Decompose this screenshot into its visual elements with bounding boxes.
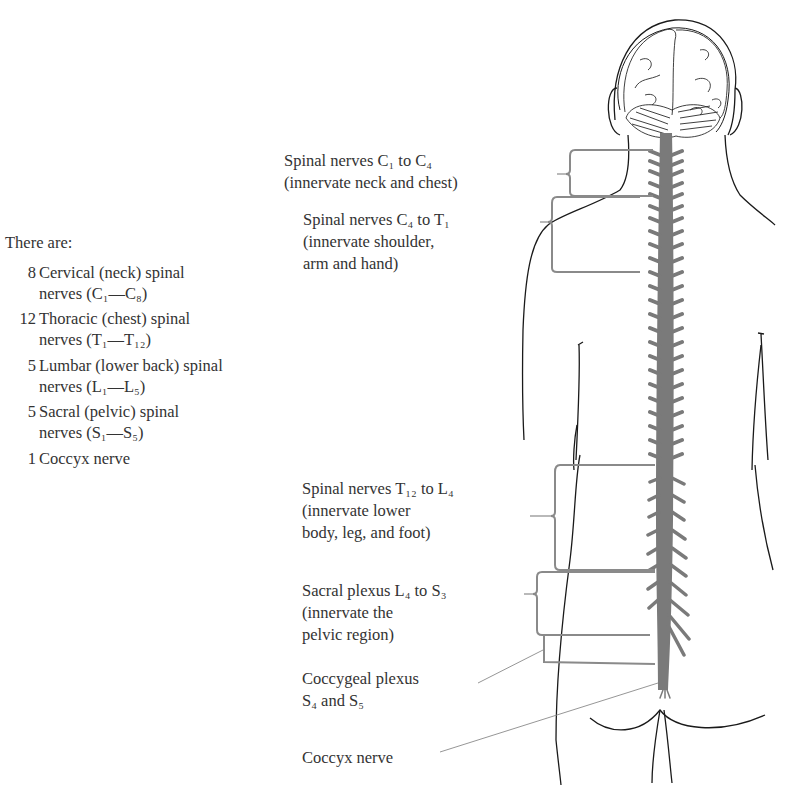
item-subtext: nerves (C₁—C₈) <box>5 283 185 304</box>
count: 12 <box>5 308 39 329</box>
list-item-lumbar: 5Lumbar (lower back) spinal nerves (L₁—L… <box>5 355 223 397</box>
list-item-cervical: 8Cervical (neck) spinal nerves (C₁—C₈) <box>5 262 185 304</box>
label-line: (innervate neck and chest) <box>284 172 458 194</box>
label-brackets <box>524 150 655 664</box>
leader-lines <box>440 650 658 752</box>
item-text: Thoracic (chest) spinal <box>39 309 190 328</box>
label-coccygeal-plexus: Coccygeal plexus S₄ and S₅ <box>302 668 419 712</box>
item-text: Coccyx nerve <box>39 449 130 468</box>
label-line: Coccyx nerve <box>302 747 393 769</box>
label-line: (innervate shoulder, <box>303 231 450 253</box>
label-line: pelvic region) <box>302 624 446 646</box>
label-line: S₄ and S₅ <box>302 690 419 712</box>
brain-icon <box>624 29 728 137</box>
count: 5 <box>5 401 39 422</box>
count: 1 <box>5 448 39 469</box>
count: 8 <box>5 262 39 283</box>
label-line: Spinal nerves T₁₂ to L₄ <box>302 478 454 500</box>
label-line: Spinal nerves C₁ to C₄ <box>284 150 458 172</box>
intro-heading: There are: <box>5 232 72 254</box>
label-line: (innervate lower <box>302 500 454 522</box>
label-line: (innervate the <box>302 602 446 624</box>
item-subtext: nerves (S₁—S₅) <box>5 422 179 443</box>
spinal-cord <box>656 133 674 690</box>
label-line: Spinal nerves C₄ to T₁ <box>303 209 450 231</box>
label-c1-c4: Spinal nerves C₁ to C₄ (innervate neck a… <box>284 150 458 194</box>
list-item-sacral: 5Sacral (pelvic) spinal nerves (S₁—S₅) <box>5 401 179 443</box>
count: 5 <box>5 355 39 376</box>
item-subtext: nerves (L₁—L₅) <box>5 376 223 397</box>
label-sacral-plexus: Sacral plexus L₄ to S₃ (innervate the pe… <box>302 580 446 646</box>
label-line: Coccygeal plexus <box>302 668 419 690</box>
label-c4-t1: Spinal nerves C₄ to T₁ (innervate should… <box>303 209 450 275</box>
label-coccyx-nerve: Coccyx nerve <box>302 747 393 769</box>
label-line: Sacral plexus L₄ to S₃ <box>302 580 446 602</box>
label-line: arm and hand) <box>303 253 450 275</box>
item-text: Sacral (pelvic) spinal <box>39 402 179 421</box>
item-subtext: nerves (T₁—T₁₂) <box>5 329 190 350</box>
item-text: Cervical (neck) spinal <box>39 263 185 282</box>
item-text: Lumbar (lower back) spinal <box>39 356 223 375</box>
label-t12-l4: Spinal nerves T₁₂ to L₄ (innervate lower… <box>302 478 454 544</box>
list-item-coccyx: 1Coccyx nerve <box>5 448 130 469</box>
label-line: body, leg, and foot) <box>302 522 454 544</box>
list-item-thoracic: 12Thoracic (chest) spinal nerves (T₁—T₁₂… <box>5 308 190 350</box>
